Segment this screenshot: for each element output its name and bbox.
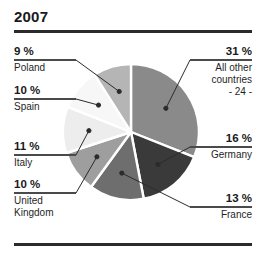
- slice-name-all-other-countries-line3: - 24 -: [190, 86, 252, 98]
- label-rule: [190, 206, 252, 208]
- slice-label-italy[interactable]: 11 % Italy: [14, 140, 76, 169]
- slice-name-spain: Spain: [14, 101, 76, 113]
- slice-name-france: France: [190, 209, 252, 221]
- label-rule: [14, 59, 76, 61]
- slice-percent-italy: 11 %: [14, 140, 76, 153]
- slice-label-france[interactable]: 13 % France: [190, 192, 252, 221]
- slice-label-poland[interactable]: 9 % Poland: [14, 45, 76, 74]
- slice-name-all-other-countries-line2: countries: [190, 74, 252, 86]
- slice-name-united-kingdom-line1: United: [14, 195, 76, 207]
- slice-label-all-other-countries[interactable]: 31 % All other countries - 24 -: [190, 45, 252, 98]
- label-rule: [14, 192, 76, 194]
- slice-percent-poland: 9 %: [14, 45, 76, 58]
- label-rule: [14, 154, 76, 156]
- slice-percent-all-other-countries: 31 %: [190, 45, 252, 58]
- slice-name-united-kingdom-line2: Kingdom: [14, 207, 76, 219]
- slice-name-italy: Italy: [14, 157, 76, 169]
- footer-rule: [14, 243, 252, 246]
- label-rule: [190, 146, 252, 148]
- label-rule: [14, 98, 76, 100]
- slice-percent-germany: 16 %: [190, 132, 252, 145]
- slice-name-all-other-countries-line1: All other: [190, 62, 252, 74]
- slice-percent-france: 13 %: [190, 192, 252, 205]
- slice-label-spain[interactable]: 10 % Spain: [14, 84, 76, 113]
- slice-label-united-kingdom[interactable]: 10 % United Kingdom: [14, 178, 76, 219]
- slice-label-germany[interactable]: 16 % Germany: [190, 132, 252, 161]
- slice-percent-spain: 10 %: [14, 84, 76, 97]
- label-rule: [190, 59, 252, 61]
- slice-name-poland: Poland: [14, 62, 76, 74]
- slice-percent-united-kingdom: 10 %: [14, 178, 76, 191]
- chart-figure: 2007 9 % Poland 10 % Spain 11 % Italy 10…: [0, 0, 266, 257]
- slice-name-germany: Germany: [190, 149, 252, 161]
